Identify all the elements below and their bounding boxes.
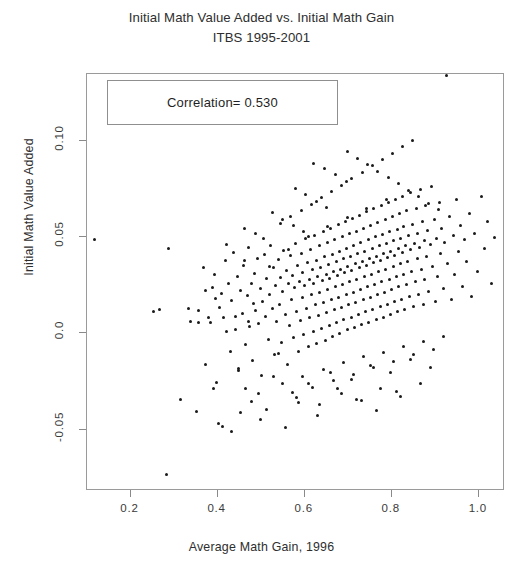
scatter-point (370, 273, 373, 276)
scatter-point (316, 414, 319, 417)
scatter-point (348, 232, 351, 235)
scatter-point (365, 207, 368, 210)
x-axis-tick-label: 1.0 (458, 502, 498, 514)
scatter-point (350, 378, 353, 381)
scatter-point (294, 242, 297, 245)
scatter-point (417, 195, 420, 198)
scatter-point (330, 298, 333, 301)
scatter-point (362, 298, 365, 301)
scatter-point (431, 265, 434, 268)
x-axis-tick (130, 490, 131, 497)
scatter-point (336, 387, 339, 390)
scatter-point (301, 375, 304, 378)
scatter-point (301, 296, 304, 299)
scatter-point (256, 257, 259, 260)
scatter-point (429, 366, 432, 369)
scatter-point (277, 352, 280, 355)
scatter-point (378, 244, 381, 247)
scatter-point (292, 336, 295, 339)
x-axis-tick-label: 0.8 (371, 502, 411, 514)
scatter-point (408, 295, 411, 298)
scatter-point (308, 316, 311, 319)
scatter-point (434, 300, 437, 303)
chart-title-block: Initial Math Value Added vs. Initial Mat… (0, 8, 523, 48)
scatter-point (379, 305, 382, 308)
scatter-point (307, 345, 310, 348)
scatter-point (480, 195, 483, 198)
y-axis-tick-label: -0.05 (53, 404, 65, 450)
scatter-point (486, 220, 489, 223)
scatter-point (307, 235, 310, 238)
scatter-point (343, 271, 346, 274)
scatter-point (179, 398, 182, 401)
scatter-point (315, 342, 318, 345)
scatter-point (389, 313, 392, 316)
scatter-point (250, 282, 253, 285)
scatter-point (409, 358, 412, 361)
scatter-point (246, 294, 249, 297)
x-axis-tick (217, 490, 218, 497)
scatter-point (399, 395, 402, 398)
scatter-point (375, 255, 378, 258)
scatter-point (340, 184, 343, 187)
scatter-point (281, 382, 284, 385)
scatter-point (340, 392, 343, 395)
scatter-point (402, 345, 405, 348)
chart-screenshot: Initial Math Value Added vs. Initial Mat… (0, 0, 523, 572)
scatter-point (363, 275, 366, 278)
scatter-point (385, 242, 388, 245)
scatter-point (376, 221, 379, 224)
scatter-point (380, 280, 383, 283)
scatter-point (286, 363, 289, 366)
plot-area (86, 73, 504, 490)
scatter-point (382, 316, 385, 319)
x-axis-tick (391, 490, 392, 497)
scatter-point (366, 285, 369, 288)
scatter-point (318, 403, 321, 406)
scatter-point (292, 224, 295, 227)
scatter-point (377, 270, 380, 273)
scatter-point (401, 145, 404, 148)
scatter-point (405, 209, 408, 212)
scatter-point (230, 299, 233, 302)
scatter-point (202, 266, 205, 269)
scatter-point (312, 330, 315, 333)
scatter-point (284, 426, 287, 429)
scatter-point (405, 283, 408, 286)
scatter-point (349, 255, 352, 258)
scatter-point (409, 191, 412, 194)
scatter-point (443, 241, 446, 244)
scatter-point (322, 301, 325, 304)
scatter-point (321, 279, 324, 282)
scatter-point (287, 282, 290, 285)
scatter-point (354, 301, 357, 304)
chart-title: Initial Math Value Added vs. Initial Mat… (0, 8, 523, 28)
scatter-point (396, 310, 399, 313)
scatter-point (204, 289, 207, 292)
scatter-point (232, 251, 235, 254)
scatter-point (372, 261, 375, 264)
scatter-point (304, 193, 307, 196)
scatter-point (448, 215, 451, 218)
scatter-point (410, 270, 413, 273)
scatter-point (384, 218, 387, 221)
scatter-point (347, 303, 350, 306)
correlation-annotation-box: Correlation= 0.530 (107, 80, 338, 125)
scatter-point (368, 257, 371, 260)
scatter-point (342, 257, 345, 260)
scatter-point (433, 218, 436, 221)
scatter-point (404, 244, 407, 247)
scatter-point (244, 343, 247, 346)
scatter-point (225, 330, 228, 333)
scatter-point (217, 422, 220, 425)
scatter-point (277, 258, 280, 261)
scatter-point (325, 206, 328, 209)
scatter-point (436, 275, 439, 278)
scatter-point (302, 333, 305, 336)
correlation-label: Correlation= 0.530 (167, 95, 278, 110)
scatter-point (213, 273, 216, 276)
scatter-point (421, 220, 424, 223)
scatter-point (426, 229, 429, 232)
scatter-point (384, 268, 387, 271)
scatter-point (356, 157, 359, 160)
